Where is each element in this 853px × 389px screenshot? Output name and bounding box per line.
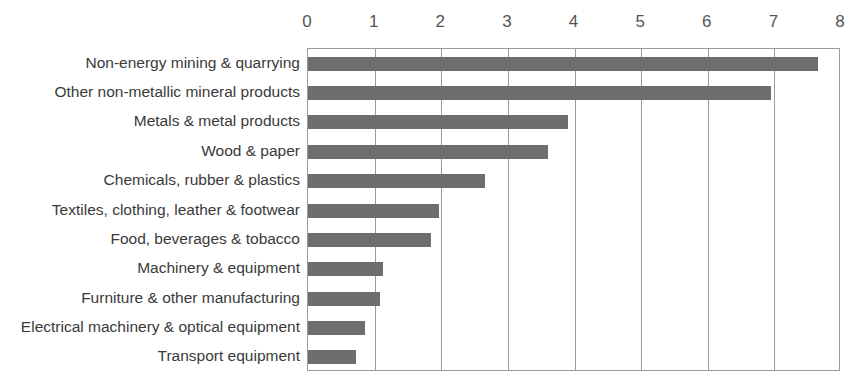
category-label: Other non-metallic mineral products <box>54 84 300 100</box>
category-label: Non-energy mining & quarrying <box>85 55 300 71</box>
category-label: Electrical machinery & optical equipment <box>21 319 300 335</box>
category-label: Textiles, clothing, leather & footwear <box>52 202 300 218</box>
category-label: Metals & metal products <box>134 113 300 129</box>
x-tick-label-6: 6 <box>702 12 711 32</box>
bar <box>308 262 383 276</box>
category-label: Transport equipment <box>158 348 300 364</box>
bar <box>308 321 365 335</box>
x-tick-label-1: 1 <box>369 12 378 32</box>
category-label: Wood & paper <box>201 143 300 159</box>
bar <box>308 204 439 218</box>
bar <box>308 292 380 306</box>
bar <box>308 350 356 364</box>
bar-chart: 012345678 Non-energy mining & quarryingO… <box>0 0 853 389</box>
x-tick-label-2: 2 <box>436 12 445 32</box>
x-tick-label-7: 7 <box>769 12 778 32</box>
category-label: Food, beverages & tobacco <box>110 231 300 247</box>
category-labels: Non-energy mining & quarryingOther non-m… <box>0 48 300 371</box>
bar <box>308 233 431 247</box>
category-label: Chemicals, rubber & plastics <box>104 172 300 188</box>
bar <box>308 174 485 188</box>
bars-layer <box>308 49 839 370</box>
x-tick-label-4: 4 <box>569 12 578 32</box>
x-tick-label-8: 8 <box>835 12 844 32</box>
bar <box>308 57 818 71</box>
x-tick-label-3: 3 <box>502 12 511 32</box>
category-label: Machinery & equipment <box>137 260 300 276</box>
x-tick-label-5: 5 <box>635 12 644 32</box>
x-tick-label-0: 0 <box>302 12 311 32</box>
bar <box>308 145 548 159</box>
bar <box>308 86 771 100</box>
category-label: Furniture & other manufacturing <box>81 290 300 306</box>
bar <box>308 115 568 129</box>
x-axis-tick-labels: 012345678 <box>307 12 840 38</box>
plot-area <box>307 48 840 371</box>
